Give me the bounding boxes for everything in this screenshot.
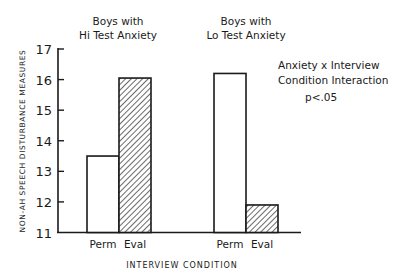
bars [87,73,278,232]
y-tick-label: 12 [35,195,52,210]
group-label-hi-line2: Hi Test Anxiety [79,29,157,41]
y-tick-label: 16 [35,73,52,88]
chart: Boys with Hi Test Anxiety Boys with Lo T… [0,0,400,274]
y-axis-label: NON-AH SPEECH DISTURBANCE MEASURES [18,50,27,233]
y-tick-label: 13 [35,164,52,179]
group-label-hi-line1: Boys with [93,15,144,27]
group-label-lo-line1: Boys with [221,15,272,27]
x-category-labels: PermEvalPermEval [90,238,273,250]
x-category-label: Perm [217,238,244,250]
bar-eval-hi [119,78,151,232]
annotation-pvalue: p<.05 [305,91,337,103]
y-tick-label: 11 [35,226,52,241]
annotation-line2: Condition Interaction [278,74,388,86]
bar-perm-hi [87,156,119,232]
x-category-label: Perm [90,238,117,250]
group-label-lo-line2: Lo Test Anxiety [206,29,285,41]
y-tick-label: 15 [35,103,52,118]
x-category-label: Eval [124,238,146,250]
x-axis-label: INTERVIEW CONDITION [126,261,238,270]
y-tick-label: 17 [35,42,52,57]
x-category-label: Eval [251,238,273,250]
bar-perm-lo [214,73,246,232]
annotation-line1: Anxiety x Interview [278,59,380,71]
bar-eval-lo [246,205,278,233]
y-tick-label: 14 [35,134,52,149]
y-ticks: 11121314151617 [35,42,64,241]
